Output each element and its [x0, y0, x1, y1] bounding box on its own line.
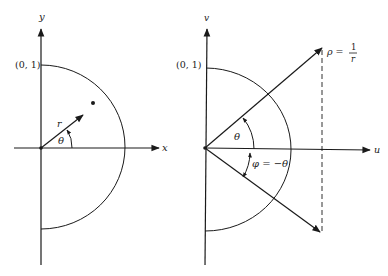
- rho-fraction-denominator: r: [351, 54, 356, 64]
- rho-vector-upper: [205, 48, 322, 148]
- u-axis-label: u: [374, 144, 380, 155]
- w-plane-panel: v u (0, 1) ρ = 1 r θ φ = −θ: [176, 13, 380, 265]
- radius-label-r: r: [57, 118, 63, 129]
- phi-arc: [243, 153, 250, 177]
- unit-circle-arc: [41, 65, 125, 229]
- y-axis-label: y: [38, 11, 45, 22]
- unit-point-label-w: (0, 1): [176, 59, 202, 70]
- unit-point-label: (0, 1): [15, 59, 41, 70]
- v-axis-label: v: [204, 13, 209, 23]
- point-z: [91, 101, 95, 105]
- theta-arc: [67, 130, 72, 148]
- inversion-mapping-figure: y x (0, 1) r θ v u (0, 1) ρ = 1: [0, 0, 388, 276]
- x-axis-label: x: [162, 142, 168, 153]
- rho-label: ρ =: [326, 46, 344, 57]
- theta-label-w: θ: [234, 131, 240, 142]
- theta-label: θ: [58, 135, 64, 146]
- unit-circle-arc-w: [205, 68, 291, 231]
- z-plane-panel: y x (0, 1) r θ: [14, 11, 168, 265]
- u-axis: [205, 148, 370, 150]
- theta-arc-w: [243, 118, 254, 149]
- phi-label: φ = −θ: [252, 158, 288, 169]
- rho-fraction-numerator: 1: [351, 42, 356, 52]
